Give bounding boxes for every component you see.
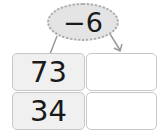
input-value: 73	[30, 55, 67, 89]
answer-cell-1[interactable]	[86, 53, 157, 91]
input-cell-2: 34	[12, 92, 85, 130]
input-line	[50, 36, 57, 54]
operation-bubble: −6	[47, 3, 119, 41]
input-value: 34	[30, 94, 67, 128]
operation-label: −6	[63, 7, 103, 38]
output-arrow	[110, 34, 120, 50]
input-cell-1: 73	[12, 53, 85, 91]
answer-cell-2[interactable]	[86, 92, 157, 130]
